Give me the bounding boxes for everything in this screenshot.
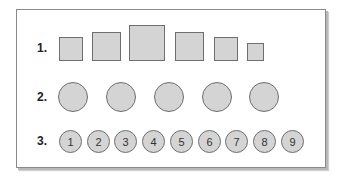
numbered-circle-9: 9 bbox=[281, 130, 304, 153]
circle-number: 3 bbox=[122, 136, 128, 148]
square-1 bbox=[59, 37, 83, 61]
row-label-2: 2. bbox=[37, 90, 47, 104]
circle-number: 5 bbox=[178, 136, 184, 148]
square-6 bbox=[247, 43, 264, 61]
circle-number: 2 bbox=[95, 136, 101, 148]
numbered-circle-2: 2 bbox=[87, 130, 110, 153]
square-3 bbox=[129, 25, 165, 61]
circle-3 bbox=[154, 82, 184, 112]
numbered-circle-4: 4 bbox=[142, 130, 165, 153]
square-4 bbox=[175, 32, 204, 61]
numbered-circle-6: 6 bbox=[198, 130, 221, 153]
circle-number: 7 bbox=[233, 136, 239, 148]
numbered-circle-8: 8 bbox=[253, 130, 276, 153]
circle-5 bbox=[249, 82, 279, 112]
circle-2 bbox=[106, 82, 136, 112]
square-2 bbox=[92, 32, 121, 61]
numbered-circle-3: 3 bbox=[114, 130, 137, 153]
numbered-circle-1: 1 bbox=[59, 130, 82, 153]
circle-1 bbox=[58, 82, 88, 112]
circle-number: 1 bbox=[67, 136, 73, 148]
square-5 bbox=[214, 37, 238, 61]
circle-number: 9 bbox=[289, 136, 295, 148]
numbered-circle-7: 7 bbox=[225, 130, 248, 153]
numbered-circle-5: 5 bbox=[170, 130, 193, 153]
row-label-3: 3. bbox=[37, 134, 47, 148]
circle-number: 4 bbox=[150, 136, 156, 148]
circle-number: 8 bbox=[261, 136, 267, 148]
row-label-1: 1. bbox=[37, 41, 47, 55]
circle-number: 6 bbox=[206, 136, 212, 148]
circle-4 bbox=[202, 82, 232, 112]
